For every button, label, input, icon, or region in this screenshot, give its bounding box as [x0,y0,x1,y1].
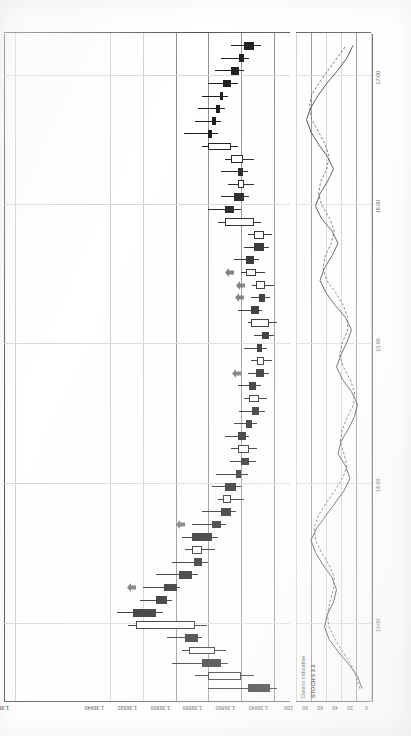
candle-body-down [252,407,259,415]
candle-wick [184,133,218,134]
candle-body-up [238,180,245,188]
price-axis-tick-label: 1.36920 [117,705,136,711]
price-axis-tick-label: 1.36998 [0,705,9,711]
candle-body-down [262,332,269,340]
stochastic-axis-tick-label: 80 [302,705,308,711]
candle-body-down [208,130,211,138]
candle-body-down [244,42,254,50]
candle-body-down [249,382,256,390]
candle-body-down [246,420,253,428]
candle-body-down [257,344,262,352]
price-time-gridline [4,75,290,76]
chart-screenshot: 1.369981.369401.369201.369001.368801.368… [0,0,411,736]
price-gridline [241,33,242,701]
candle-body-up [136,621,195,629]
candle-body-down [202,659,222,667]
rotated-chart-canvas: 1.369981.369401.369201.369001.368801.368… [0,0,411,736]
time-axis-tick-label: 17:00 [375,71,381,85]
candle-wick [216,474,247,475]
candle-body-up [256,281,266,289]
data-disclaimer-label: Data is indicative [300,656,306,698]
candle-body-up [225,218,254,226]
candle-body-down [133,609,156,617]
time-axis-tick-label: 15:00 [375,338,381,352]
candle-body-down [246,256,254,264]
candle-body-down [231,67,239,75]
candle-wick [195,121,221,122]
candle-wick [202,96,228,97]
price-axis-tick-label: 1.36880 [183,705,202,711]
sell-signal-arrow-icon[interactable] [176,518,185,531]
candle-body-down [192,533,212,541]
stochastic-axis-tick-label: 100 [284,705,293,711]
candle-body-up [208,672,241,680]
time-axis-tick-label: 13:00 [375,619,381,633]
candle-body-down [234,193,244,201]
candle-body-down [212,117,217,125]
candle-body-up [249,395,259,403]
candle-body-down [179,571,192,579]
candle-body-down [185,634,198,642]
candle-body-down [256,369,264,377]
candle-body-down [225,483,236,491]
candle-body-up [254,231,264,239]
sell-signal-arrow-icon[interactable] [235,291,244,304]
candle-body-up [251,319,269,327]
time-axis-tick-label: 14:00 [375,478,381,492]
candle-body-down [221,508,231,516]
price-time-gridline [4,483,290,484]
time-axis-tick-label: 16:00 [375,200,381,214]
sell-signal-arrow-icon[interactable] [232,367,241,380]
candle-body-down [259,294,266,302]
candle-body-up [231,155,242,163]
candle-body-up [246,269,256,277]
candle-body-down [156,596,167,604]
candle-wick [244,348,267,349]
candle-body-down [236,470,241,478]
candle-body-up [257,357,264,365]
sell-signal-arrow-icon[interactable] [225,266,234,279]
stochastic-pane[interactable] [296,32,371,702]
stochastic-axis-tick-label: 40 [332,705,338,711]
price-axis-tick-label: 1.36860 [216,705,235,711]
stochastic-line-k [307,45,363,688]
indicator-name-label: STOCH 5 3 3 [310,665,316,698]
stochastic-axis-tick-label: 0 [365,705,368,711]
candle-wick [221,171,247,172]
candle-body-up [238,445,249,453]
candle-body-down [239,54,244,62]
candle-wick [172,562,208,563]
candle-body-down [216,105,219,113]
stochastic-gridline [371,33,372,701]
stochastic-axis-tick-label: 20 [347,705,353,711]
candle-body-down [225,206,235,214]
price-time-gridline [4,204,290,205]
candle-body-down [220,92,223,100]
price-gridline [110,33,111,701]
price-gridline [15,33,16,701]
candle-wick [215,70,244,71]
candle-wick [221,58,249,59]
candle-wick [218,499,244,500]
candle-body-down [238,432,246,440]
candle-body-up [192,546,202,554]
sell-signal-arrow-icon[interactable] [236,279,245,292]
price-time-gridline [4,343,290,344]
price-gridline [274,33,275,701]
candle-body-up [208,143,231,151]
candle-wick [198,108,224,109]
price-gridline [176,33,177,701]
price-gridline [143,33,144,701]
candle-body-down [164,584,177,592]
candle-body-down [254,243,264,251]
stochastic-axis-tick-label: 60 [317,705,323,711]
candle-body-down [194,558,202,566]
sell-signal-arrow-icon[interactable] [127,581,136,594]
stochastic-lines [296,33,371,701]
price-pane[interactable] [4,32,290,702]
candle-body-down [241,458,249,466]
candle-body-down [212,521,222,529]
candle-body-down [223,80,231,88]
candle-body-up [189,647,215,655]
candle-body-down [238,168,243,176]
